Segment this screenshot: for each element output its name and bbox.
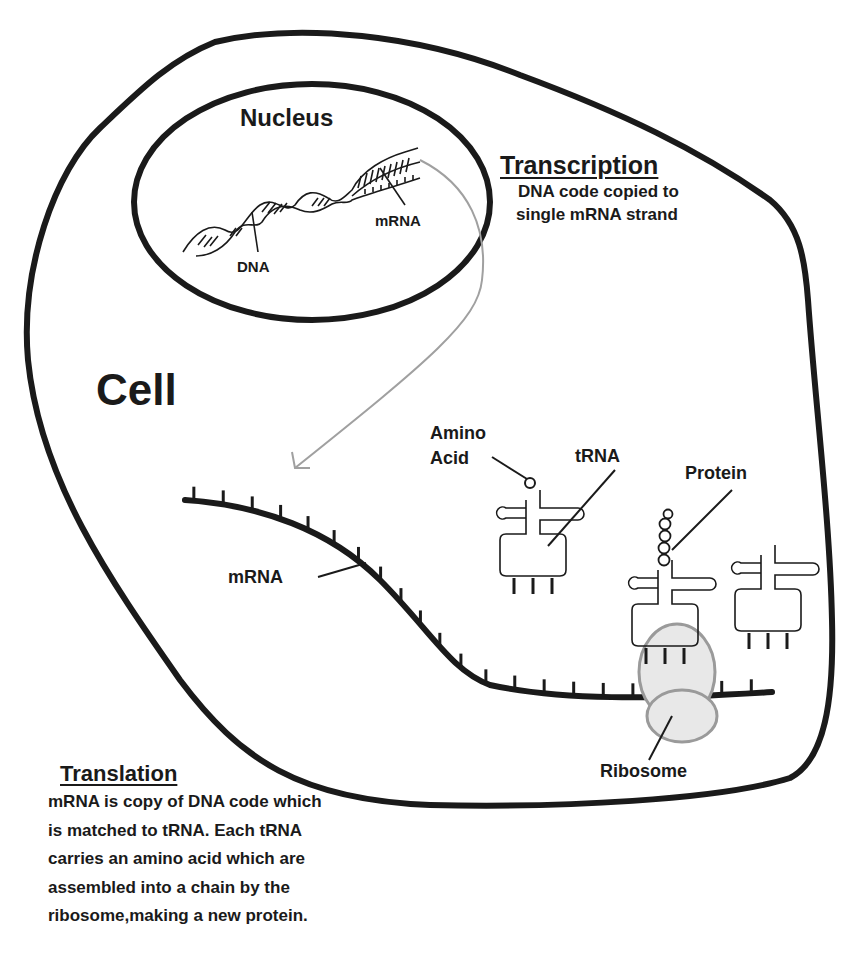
translation-block: Translation mRNA is copy of DNA code whi… [48,760,322,931]
protein-chain [659,510,673,566]
arrow-head-icon [292,452,310,468]
translation-line-4: assembled into a chain by the [48,874,322,903]
ribosome-small-subunit [647,690,717,742]
ribosome-label: Ribosome [600,761,687,781]
dna-pointer [252,212,258,252]
cytoplasm-mrna-label: mRNA [228,567,283,587]
translation-line-3: carries an amino acid which are [48,845,322,874]
nucleus-label: Nucleus [240,104,333,131]
translation-line-5: ribosome,making a new protein. [48,902,322,931]
amino-acid-label-line1: Amino [430,423,486,443]
protein-pointer [672,490,732,550]
transcription-heading: Transcription [500,150,679,180]
trna-molecule [497,490,584,594]
translation-heading: Translation [48,760,322,788]
trna-body [732,545,819,631]
nucleus-mrna-pointer [380,168,405,205]
transcription-line-2: single mRNA strand [500,203,679,226]
amino-acid-label-line2: Acid [430,448,469,468]
dna-label: DNA [237,258,270,275]
trna-body [497,490,584,576]
nucleus-mrna-label: mRNA [375,212,421,229]
trna-molecule [732,545,819,649]
cell-label: Cell [96,365,177,414]
mrna-pointer [318,563,366,577]
transport-arrow [295,160,483,468]
trna-label: tRNA [575,446,620,466]
dna-helix [183,148,420,256]
protein-label: Protein [685,463,747,483]
transcription-block: Transcription DNA code copied to single … [500,150,679,226]
translation-line-1: mRNA is copy of DNA code which [48,788,322,817]
translation-line-2: is matched to tRNA. Each tRNA [48,817,322,846]
amino-acid-pointer [492,457,527,479]
transcription-line-1: DNA code copied to [500,180,679,203]
